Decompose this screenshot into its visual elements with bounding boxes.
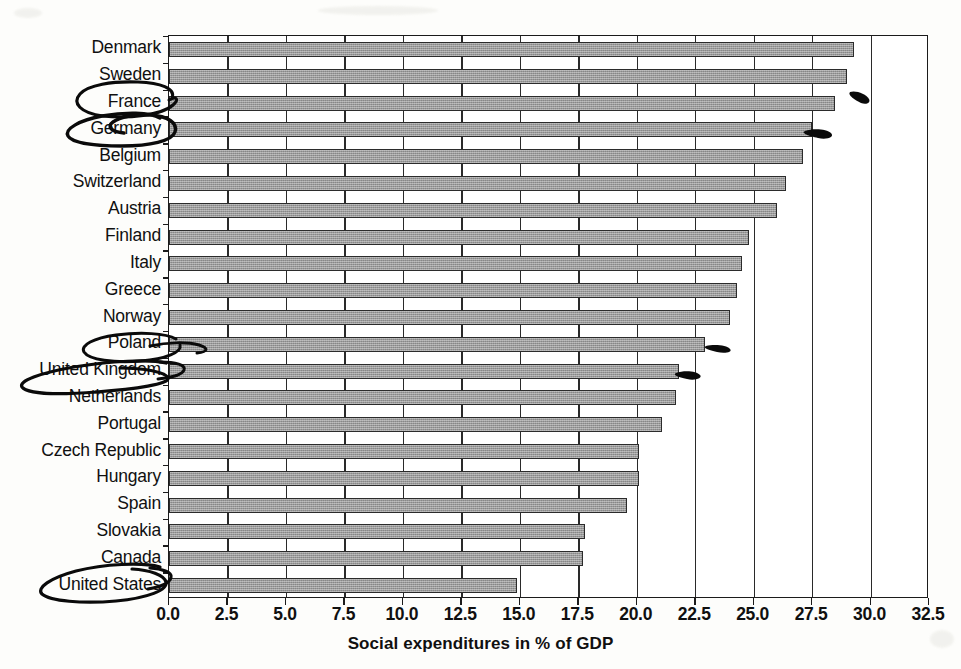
category-label-hungary: Hungary: [0, 468, 161, 486]
category-label-netherlands: Netherlands: [0, 388, 161, 406]
x-axis-tick-label: 20.0: [619, 604, 652, 625]
category-label-denmark: Denmark: [0, 39, 161, 57]
x-axis-tick-label: 0.0: [156, 604, 179, 625]
y-axis-tick: [163, 545, 169, 546]
category-label-switzerland: Switzerland: [0, 173, 161, 191]
gridline: [812, 36, 813, 597]
x-axis-tick-label: 2.5: [215, 604, 238, 625]
bar-austria: [169, 203, 777, 218]
category-label-sweden: Sweden: [0, 66, 161, 84]
x-axis-title: Social expenditures in % of GDP: [0, 634, 961, 654]
category-label-greece: Greece: [0, 281, 161, 299]
plot-area: [168, 35, 928, 598]
bar-chart: DenmarkSwedenFranceGermanyBelgiumSwitzer…: [0, 0, 961, 669]
y-axis-tick: [163, 492, 169, 493]
y-axis-tick: [163, 438, 169, 439]
bar-italy: [169, 256, 742, 271]
y-axis-tick: [163, 116, 169, 117]
y-axis-tick: [163, 224, 169, 225]
category-label-finland: Finland: [0, 227, 161, 245]
gridline: [871, 36, 872, 597]
category-label-germany: Germany: [0, 120, 161, 138]
bar-slovakia: [169, 524, 585, 539]
category-label-czech-republic: Czech Republic: [0, 442, 161, 460]
y-axis-tick: [163, 465, 169, 466]
x-axis-tick-label: 15.0: [502, 604, 535, 625]
category-label-austria: Austria: [0, 200, 161, 218]
paper-smudge: [930, 630, 954, 648]
category-label-portugal: Portugal: [0, 415, 161, 433]
bar-poland: [169, 337, 705, 352]
y-axis-tick: [163, 90, 169, 91]
y-axis-tick: [163, 63, 169, 64]
paper-smudge: [14, 8, 42, 18]
y-axis-tick: [163, 304, 169, 305]
x-axis-tick-label: 22.5: [678, 604, 711, 625]
bar-canada: [169, 551, 583, 566]
x-axis-tick-label: 25.0: [736, 604, 769, 625]
bar-finland: [169, 230, 749, 245]
x-axis-tick-label: 7.5: [332, 604, 355, 625]
category-label-norway: Norway: [0, 308, 161, 326]
bar-hungary: [169, 471, 639, 486]
bar-switzerland: [169, 176, 786, 191]
bar-denmark: [169, 42, 854, 57]
bar-spain: [169, 498, 627, 513]
category-label-united-kingdom: United Kingdom: [0, 361, 161, 379]
y-axis-tick: [163, 331, 169, 332]
y-axis-tick: [163, 36, 169, 37]
y-axis-tick: [163, 170, 169, 171]
x-axis-tick-label: 27.5: [795, 604, 828, 625]
bar-portugal: [169, 417, 662, 432]
bar-france: [169, 96, 835, 111]
category-label-slovakia: Slovakia: [0, 522, 161, 540]
bar-belgium: [169, 149, 803, 164]
bar-united-kingdom: [169, 364, 679, 379]
y-axis-tick: [163, 385, 169, 386]
category-label-italy: Italy: [0, 254, 161, 272]
category-label-poland: Poland: [0, 334, 161, 352]
bar-netherlands: [169, 390, 676, 405]
bar-sweden: [169, 69, 847, 84]
x-axis-tick-label: 10.0: [385, 604, 418, 625]
y-axis-tick: [163, 411, 169, 412]
y-axis-tick: [163, 197, 169, 198]
category-label-canada: Canada: [0, 549, 161, 567]
x-axis-tick-label: 17.5: [561, 604, 594, 625]
paper-smudge: [318, 6, 438, 15]
bar-greece: [169, 283, 737, 298]
y-axis-tick: [163, 277, 169, 278]
x-axis-tick-label: 32.5: [912, 604, 945, 625]
x-axis-tick-label: 30.0: [853, 604, 886, 625]
category-label-united-states: United States: [0, 576, 161, 594]
x-axis-tick-label: 12.5: [444, 604, 477, 625]
category-label-spain: Spain: [0, 495, 161, 513]
y-axis-tick: [163, 358, 169, 359]
bar-germany: [169, 122, 812, 137]
bar-united-states: [169, 578, 517, 593]
category-label-france: France: [0, 93, 161, 111]
bar-czech-republic: [169, 444, 639, 459]
x-axis-tick-label: 5.0: [273, 604, 296, 625]
category-label-belgium: Belgium: [0, 147, 161, 165]
gridline: [754, 36, 755, 597]
y-axis-tick: [163, 143, 169, 144]
y-axis-tick: [163, 250, 169, 251]
y-axis-tick: [163, 572, 169, 573]
y-axis-tick: [163, 519, 169, 520]
bar-norway: [169, 310, 730, 325]
